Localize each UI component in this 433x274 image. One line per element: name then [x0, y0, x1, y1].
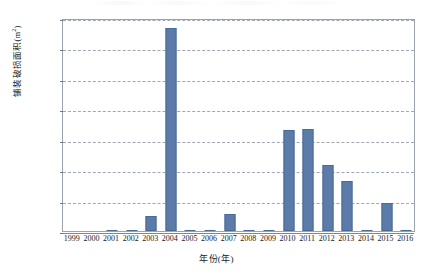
plot-area: 03 0006 0009 00012 00015 00018 00021 000 [62, 19, 415, 232]
y-axis-title-text: 铺装破损面积(m [12, 32, 22, 97]
y-tick-mark-0 [60, 233, 63, 234]
bar-2008[interactable] [244, 230, 255, 231]
bar-2013[interactable] [342, 181, 353, 231]
bar-2012[interactable] [322, 165, 333, 231]
bar-2006[interactable] [205, 230, 216, 231]
bar-2009[interactable] [263, 230, 274, 231]
bar-2001[interactable] [107, 230, 118, 231]
y-axis-title: 铺装破损面积(m2) [11, 1, 21, 121]
bar-2005[interactable] [185, 230, 196, 231]
bar-slot-2015 [377, 20, 397, 231]
bar-slot-2007 [220, 20, 240, 231]
bar-slot-2008 [240, 20, 260, 231]
bar-2011[interactable] [303, 129, 314, 231]
bar-slot-2009 [259, 20, 279, 231]
bar-2015[interactable] [381, 203, 392, 231]
bar-slot-2000 [83, 20, 103, 231]
bar-slot-2005 [181, 20, 201, 231]
bar-2003[interactable] [146, 216, 157, 231]
bar-chart-figure: 铺装破损面积(m2) 03 0006 0009 00012 00015 0001… [0, 0, 433, 274]
bar-slot-2013 [338, 20, 358, 231]
bar-slot-2006 [200, 20, 220, 231]
cropped-title-remnant [92, 1, 342, 5]
bar-2010[interactable] [283, 130, 294, 231]
bar-slot-2001 [102, 20, 122, 231]
bar-2007[interactable] [224, 214, 235, 231]
y-axis-title-tail: ) [12, 26, 22, 29]
bar-slot-2012 [318, 20, 338, 231]
bars-group [63, 20, 414, 231]
x-tick-label-2016: 2016 [385, 235, 425, 243]
bar-2002[interactable] [126, 230, 137, 231]
bar-slot-2011 [298, 20, 318, 231]
bar-2014[interactable] [361, 230, 372, 231]
bar-slot-2003 [141, 20, 161, 231]
bar-slot-2016 [396, 20, 416, 231]
bar-slot-2002 [122, 20, 142, 231]
bar-slot-2014 [357, 20, 377, 231]
bar-2004[interactable] [165, 28, 176, 231]
x-axis-title: 年份(年) [0, 252, 433, 265]
y-axis-title-exponent: 2 [11, 29, 17, 32]
bar-slot-2010 [279, 20, 299, 231]
bar-2016[interactable] [401, 230, 412, 231]
bar-slot-1999 [63, 20, 83, 231]
bar-slot-2004 [161, 20, 181, 231]
